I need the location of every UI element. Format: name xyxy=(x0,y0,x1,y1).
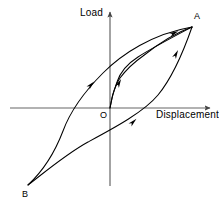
load-axis-label: Load xyxy=(80,8,103,18)
arrow-right-branch-icon xyxy=(172,49,180,59)
point-label-a: A xyxy=(194,12,200,21)
diagram-canvas xyxy=(0,0,219,214)
point-label-b: B xyxy=(22,190,28,199)
origin-label: O xyxy=(100,111,107,120)
axes-group xyxy=(10,12,210,186)
inner-loop-return-branch xyxy=(110,27,192,108)
inner-loop-branch xyxy=(110,27,192,108)
displacement-axis-label: Displacement xyxy=(156,110,219,120)
hysteresis-loop-figure: Load Displacement O A B xyxy=(0,0,219,214)
